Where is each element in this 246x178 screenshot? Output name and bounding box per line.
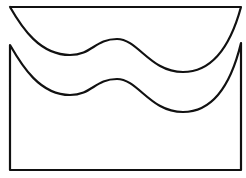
lower-wave-box: [10, 43, 241, 170]
wave-diagram: [0, 0, 246, 178]
upper-wave-shape: [10, 7, 241, 72]
